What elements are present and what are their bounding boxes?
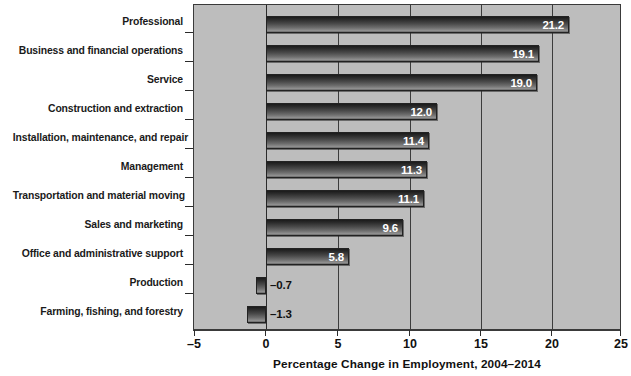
bar-value-label: 19.0 [510,75,532,92]
y-axis-tick [185,148,193,149]
x-axis-tick [194,330,195,336]
bar-service: 19.0 [266,74,537,91]
x-axis-tick [480,330,481,336]
category-label: Office and administrative support [13,247,183,259]
y-axis-tick [185,235,193,236]
x-axis-tick-label: –5 [187,337,201,351]
bar-production [256,277,266,294]
bar-professional: 21.2 [266,16,569,33]
x-axis-title: Percentage Change in Employment, 2004–20… [193,357,621,371]
category-label: Management [13,160,183,172]
x-axis-line [193,329,621,331]
bar-sales-and-marketing: 9.6 [266,219,403,236]
bar-value-label: 11.3 [401,162,422,179]
x-axis-tick [551,330,552,336]
y-axis-tick [185,90,193,91]
x-axis-tick-label: 15 [474,337,488,351]
x-axis-tick-label: 20 [545,337,559,351]
category-label: Sales and marketing [13,218,183,230]
category-label: Installation, maintenance, and repair [13,131,183,143]
bar-value-label: –0.7 [270,277,292,294]
category-label: Service [13,73,183,85]
y-axis-tick [185,119,193,120]
bar-value-label: –1.3 [270,306,292,323]
bar-management: 11.3 [266,161,427,178]
gridline [552,5,553,329]
y-axis-tick [185,264,193,265]
category-label: Farming, fishing, and forestry [13,305,183,317]
bar-value-label: 19.1 [512,46,534,63]
bar-value-label: 12.0 [410,104,432,121]
x-axis-tick [337,330,338,336]
bar-office-and-administrative-support: 5.8 [266,248,349,265]
category-label: Business and financial operations [13,44,183,56]
bar-transportation-and-material-moving: 11.1 [266,190,424,207]
bar-value-label: 5.8 [329,249,344,266]
bar-business-and-financial-operations: 19.1 [266,45,539,62]
x-axis-tick-label: 0 [263,337,270,351]
bar-value-label: 11.4 [403,133,424,150]
bar-farming-fishing-and-forestry [247,306,266,323]
category-label: Construction and extraction [13,102,183,114]
y-axis-tick [185,177,193,178]
bar-installation-maintenance-and-repair: 11.4 [266,132,429,149]
bar-construction-and-extraction: 12.0 [266,103,437,120]
x-axis-tick-label: 25 [614,337,628,351]
category-label: Professional [13,15,183,27]
x-axis-tick-label: 5 [335,337,342,351]
y-axis-tick [185,206,193,207]
bar-value-label: 21.2 [542,17,564,34]
category-axis-labels: Professional Business and financial oper… [0,4,183,330]
category-label: Production [13,276,183,288]
x-axis-tick [620,330,621,336]
y-axis-tick [185,61,193,62]
bar-chart: Professional Business and financial oper… [0,0,631,376]
bar-value-label: 11.1 [398,191,419,208]
category-label: Transportation and material moving [13,189,183,201]
x-axis-tick [265,330,266,336]
plot-area: 21.2 19.1 19.0 12.0 11.4 11.3 11.1 9.6 5… [193,4,621,330]
bar-value-label: 9.6 [383,220,398,237]
x-axis-tick-label: 10 [403,337,417,351]
y-axis-tick [185,293,193,294]
x-axis-tick [409,330,410,336]
y-axis-tick [185,32,193,33]
